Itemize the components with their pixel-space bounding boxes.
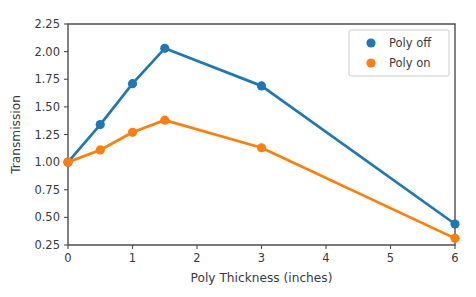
series-1-point [128,79,137,88]
legend[interactable]: Poly offPoly on [349,30,449,76]
y-axis-title: Transmission [9,95,23,175]
plot-canvas: 0.250.500.751.001.251.501.752.002.250123… [0,0,476,297]
legend-label-1[interactable]: Poly off [389,36,432,50]
legend-marker-1 [366,38,375,47]
y-tick-label: 1.75 [34,72,60,86]
series-1-point [257,81,266,90]
series-2-point [63,158,72,167]
y-tick-label: 1.50 [34,100,60,114]
y-tick-label: 2.25 [34,17,60,31]
y-tick-label: 0.25 [34,238,60,252]
x-tick-label: 0 [64,251,71,265]
series-1-point [450,219,459,228]
x-tick-label: 6 [451,251,458,265]
series-2-point [257,143,266,152]
chart-figure: 0.250.500.751.001.251.501.752.002.250123… [0,0,476,297]
series-line-2 [68,120,455,238]
series-2-point [96,145,105,154]
series-1-point [96,120,105,129]
x-tick-label: 3 [258,251,265,265]
legend-label-2[interactable]: Poly on [389,56,431,70]
y-tick-label: 1.25 [34,128,60,142]
y-tick-label: 2.00 [34,45,60,59]
x-tick-label: 4 [322,251,329,265]
x-tick-label: 2 [193,251,200,265]
y-tick-label: 0.75 [34,183,60,197]
x-tick-label: 5 [387,251,394,265]
x-axis-title: Poly Thickness (inches) [191,271,333,285]
series-1-point [160,44,169,53]
series-2-point [160,116,169,125]
series-2-point [128,128,137,137]
x-tick-label: 1 [129,251,136,265]
legend-marker-2 [366,58,375,67]
y-tick-label: 0.50 [34,210,60,224]
series-2-point [450,234,459,243]
y-tick-label: 1.00 [34,155,60,169]
